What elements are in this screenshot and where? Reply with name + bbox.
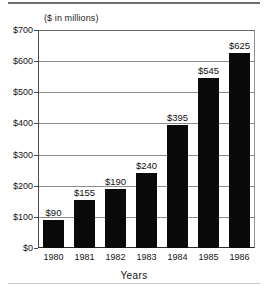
x-tick-label: 1982 [99, 252, 133, 262]
bar-value-label: $190 [95, 176, 137, 187]
y-tick-label: $200 [0, 181, 33, 191]
bar-value-label: $545 [188, 65, 230, 76]
x-tick-label: 1983 [130, 252, 164, 262]
x-tick-label: 1981 [68, 252, 102, 262]
y-tick-label: $100 [0, 212, 33, 222]
y-tick-mark [34, 248, 38, 249]
x-tick-label: 1984 [161, 252, 195, 262]
y-tick-label: $400 [0, 118, 33, 128]
chart-subtitle: ($ in millions) [44, 13, 99, 23]
y-tick-label: $300 [0, 150, 33, 160]
x-tick-label: 1986 [223, 252, 257, 262]
bar-chart-figure: ($ in millions) $0$100$200$300$400$500$6… [0, 0, 268, 289]
bar [43, 220, 64, 248]
bar [167, 125, 188, 248]
bar [136, 173, 157, 248]
bar [198, 78, 219, 248]
bar-value-label: $395 [157, 112, 199, 123]
x-tick-label: 1980 [37, 252, 71, 262]
bar-value-label: $625 [219, 40, 261, 51]
bar-value-label: $90 [33, 207, 75, 218]
bar [105, 189, 126, 248]
bar-value-label: $155 [64, 187, 106, 198]
page-top-rule [8, 2, 260, 4]
bar [74, 200, 95, 248]
y-tick-label: $500 [0, 87, 33, 97]
bar-value-label: $240 [126, 160, 168, 171]
y-tick-label: $600 [0, 56, 33, 66]
x-tick-label: 1985 [192, 252, 226, 262]
bar [229, 53, 250, 248]
y-tick-label: $0 [0, 243, 33, 253]
y-tick-label: $700 [0, 25, 33, 35]
x-axis-label: Years [0, 270, 268, 281]
page-bottom-rule [8, 283, 260, 284]
